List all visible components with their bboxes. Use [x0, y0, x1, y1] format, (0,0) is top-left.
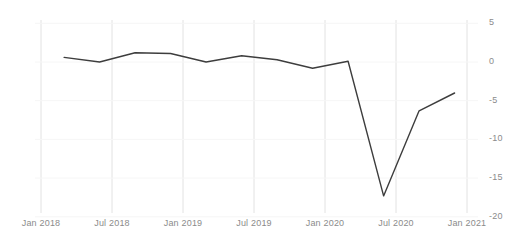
x-axis-tick-label: Jan 2020: [306, 219, 345, 228]
x-axis-tick-label: Jul 2020: [378, 219, 414, 228]
y-axis-tick-label: -5: [489, 96, 497, 105]
line-chart: 50-5-10-15-20 Jan 2018Jul 2018Jan 2019Ju…: [0, 0, 526, 250]
x-axis-tick-label: Jul 2018: [94, 219, 130, 228]
y-axis-tick-label: -15: [489, 173, 503, 182]
x-axis-tick-label: Jul 2019: [236, 219, 272, 228]
y-axis-tick-label: -10: [489, 134, 503, 143]
x-axis-tick-label: Jan 2021: [448, 219, 487, 228]
horizontal-gridline-group: [35, 23, 478, 217]
gridline-group: [41, 20, 467, 213]
y-axis-tick-label: -20: [489, 212, 503, 221]
y-axis-tick-label: 0: [489, 57, 494, 66]
chart-plot-area: [0, 0, 526, 250]
y-axis-tick-label: 5: [489, 18, 494, 27]
x-axis-tick-label: Jan 2018: [22, 219, 61, 228]
x-axis-tick-label: Jan 2019: [164, 219, 203, 228]
